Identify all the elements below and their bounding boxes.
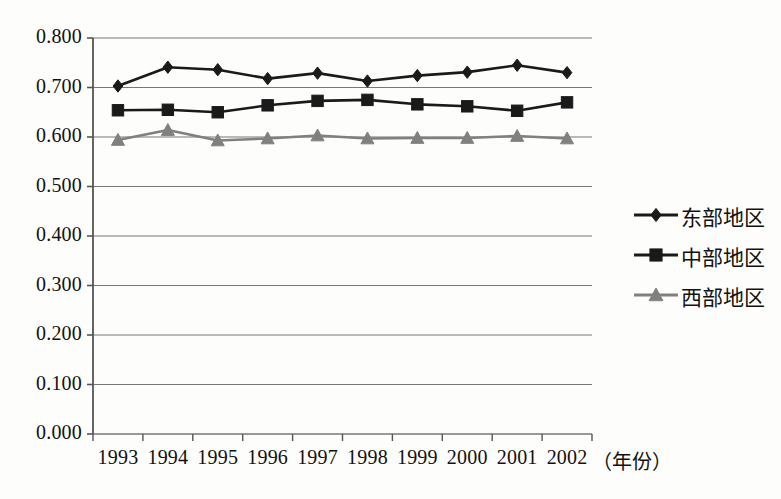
square-marker-icon [162, 104, 173, 115]
square-marker-icon [112, 105, 123, 116]
legend-label-3[interactable]: 西部地区 [681, 281, 765, 311]
y-tick-label-0.600: 0.600 [8, 124, 82, 147]
y-tick-label-0.200: 0.200 [8, 322, 82, 345]
y-tick-label-0.700: 0.700 [8, 75, 82, 98]
diamond-marker-icon [512, 59, 522, 71]
square-marker-icon [212, 107, 223, 118]
diamond-marker-icon [562, 66, 572, 78]
series-line [118, 100, 567, 112]
square-marker-icon [650, 249, 662, 261]
diamond-marker-icon [462, 66, 472, 78]
square-marker-icon [462, 101, 473, 112]
legend-markers-group [634, 208, 678, 300]
y-tick-label-0.500: 0.500 [8, 174, 82, 197]
series-line [118, 65, 567, 86]
diamond-marker-icon [363, 75, 373, 87]
x-axis-title: （年份） [592, 446, 672, 475]
square-marker-icon [262, 100, 273, 111]
diamond-marker-icon [313, 67, 323, 79]
series-2 [112, 94, 573, 118]
legend-label-1[interactable]: 东部地区 [681, 201, 765, 231]
y-tick-label-0.300: 0.300 [8, 273, 82, 296]
square-marker-icon [362, 94, 373, 105]
diamond-marker-icon [263, 72, 273, 84]
triangle-marker-icon [161, 124, 174, 136]
diamond-marker-icon [413, 69, 423, 81]
y-tick-label-0.400: 0.400 [8, 223, 82, 246]
diamond-marker-icon [651, 208, 661, 221]
chart-canvas [0, 0, 781, 499]
series-3 [111, 124, 573, 146]
y-tick-label-0.000: 0.000 [8, 421, 82, 444]
gridlines-group [93, 38, 592, 434]
series-line [118, 130, 567, 140]
y-tick-label-0.800: 0.800 [8, 25, 82, 48]
x-tick-label-2002: 2002 [537, 446, 597, 469]
line-chart-figure: 0.8000.7000.6000.5000.4000.3000.2000.100… [0, 0, 781, 499]
y-tick-label-0.100: 0.100 [8, 372, 82, 395]
x-tick-marks [93, 434, 592, 441]
legend-label-2[interactable]: 中部地区 [681, 241, 765, 271]
square-marker-icon [511, 105, 522, 116]
square-marker-icon [561, 97, 572, 108]
diamond-marker-icon [113, 80, 123, 92]
square-marker-icon [412, 99, 423, 110]
diamond-marker-icon [163, 61, 173, 73]
square-marker-icon [312, 95, 323, 106]
diamond-marker-icon [213, 63, 223, 75]
